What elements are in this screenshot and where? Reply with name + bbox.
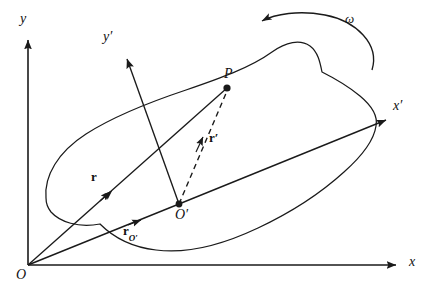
label-vector-r-origin-base: r: [123, 223, 129, 238]
label-vector-r-prime: r′: [209, 131, 218, 144]
diagram-canvas: [0, 0, 426, 298]
vector-r-arrow-stem: [100, 192, 110, 201]
label-angular-velocity: ω: [345, 12, 354, 25]
rotating-frame-diagram: y x y′ x′ O O′ P r r′ rO′ ω: [0, 0, 426, 298]
label-origin-moving: O′: [175, 208, 188, 222]
label-x-axis: x: [409, 255, 415, 269]
rigid-body-outline: [46, 42, 377, 251]
label-vector-r: r: [91, 170, 97, 183]
label-origin-fixed: O: [16, 268, 26, 282]
point-p-dot: [223, 84, 230, 91]
label-y-axis: y: [20, 12, 26, 26]
label-vector-r-origin: rO′: [123, 224, 138, 241]
label-x-prime-axis: x′: [393, 99, 402, 113]
label-point-p: P: [224, 67, 233, 81]
omega-rotation-arc: [262, 13, 374, 70]
vector-r-origin-line: [28, 204, 179, 265]
label-y-prime-axis: y′: [103, 30, 112, 44]
label-vector-r-origin-subscript: O′: [129, 233, 138, 243]
y-prime-axis: [127, 59, 179, 204]
